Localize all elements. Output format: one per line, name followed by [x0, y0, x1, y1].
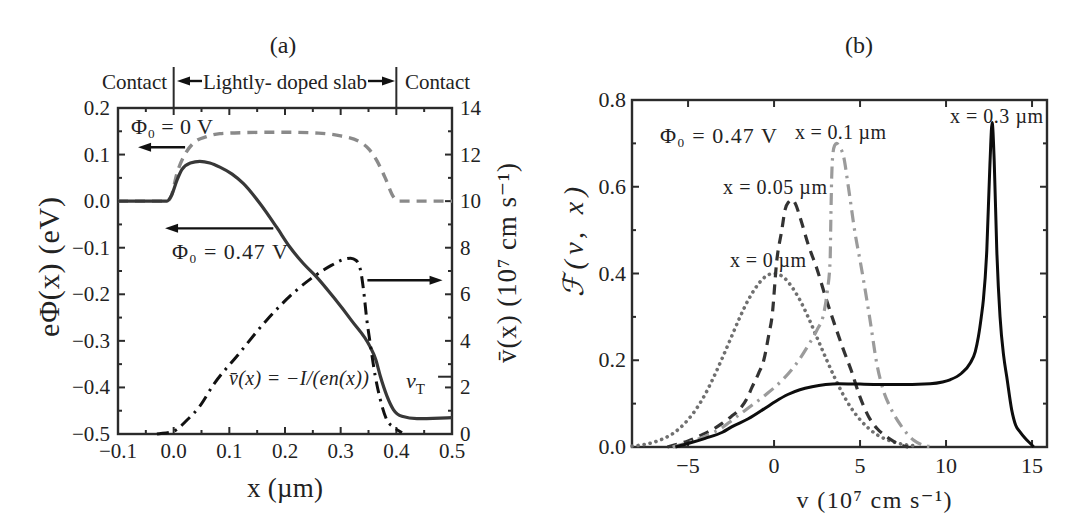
y-tick-label: 0.0 [84, 189, 110, 213]
panel-a: (a) Contact Lightly- doped slab Contact … [32, 32, 522, 503]
x-tick-label: 5 [855, 453, 866, 478]
curve-label-x-0: x = 0 µm [730, 249, 806, 272]
x-tick-label: 0 [769, 453, 780, 478]
annotation-vbar-formula: v̄(x) = −I/(en(x)) [229, 367, 369, 390]
arrow-right-icon [368, 77, 395, 86]
x-tick-label: 0.1 [216, 439, 242, 463]
y-tick-label: 0.8 [599, 87, 627, 112]
x-tick-label: 10 [935, 453, 957, 478]
y-tick-label: 0.1 [84, 143, 110, 167]
annotation-phi0-zero: Φ₀ = 0 V [131, 114, 213, 139]
y-axis-label-right-a: v̄(x) (10⁷ cm s⁻¹) [492, 163, 522, 363]
x-tick-label: 15 [1021, 453, 1043, 478]
figure: (a) Contact Lightly- doped slab Contact … [0, 0, 1068, 532]
x-tick-label: −5 [676, 453, 699, 478]
y-right-tick-label: 2 [460, 375, 471, 399]
y-tick-label: −0.1 [72, 236, 110, 260]
y-tick-label: −0.5 [72, 422, 110, 446]
x-tick-label: 0.4 [383, 439, 410, 463]
x-tick-label: 0.0 [161, 439, 187, 463]
vT-subscript: T [416, 381, 425, 397]
y-right-tick-label: 12 [460, 143, 481, 167]
series-x-0-m-line [632, 274, 917, 447]
y-tick-label: 0.0 [599, 434, 627, 459]
region-label-right-contact: Contact [405, 70, 470, 94]
annotation-vT: vT [406, 368, 425, 397]
arrow-left-icon [165, 224, 273, 233]
panel-a-title: (a) [270, 32, 297, 58]
annotation-phi0-047: Φ₀ = 0.47 V [172, 239, 288, 264]
curve-label-x-0.3: x = 0.3 µm [950, 105, 1043, 128]
y-right-tick-label: 4 [460, 329, 471, 353]
y-tick-label: 0.2 [599, 347, 627, 372]
region-label-left-contact: Contact [102, 70, 167, 94]
y-tick-label: 0.4 [599, 261, 627, 286]
y-right-tick-label: 6 [460, 282, 471, 306]
x-tick-label: 0.5 [439, 439, 465, 463]
panel-b-title: (b) [845, 32, 873, 58]
series-x-0.3-m-line [675, 123, 1033, 447]
arrow-left-icon [177, 77, 202, 86]
y-right-tick-label: 10 [460, 189, 481, 213]
vT-symbol: v [406, 368, 416, 393]
y-tick-label: 0.2 [84, 96, 110, 120]
series-layer-b [632, 123, 1034, 447]
x-axis-label-b: v (10⁷ cm s⁻¹) [797, 487, 952, 513]
x-tick-label: 0.3 [328, 439, 354, 463]
arrow-right-icon [367, 276, 442, 285]
series-v-x-i-en-x-line [157, 258, 402, 434]
y-tick-label: −0.4 [72, 375, 111, 399]
region-header: Contact Lightly- doped slab Contact [102, 67, 470, 108]
y-axis-label-b: ℱ(v, x) [558, 187, 589, 297]
series-0-v-line [118, 132, 452, 201]
annotation-phi0-047-b: Φ₀ = 0.47 V [660, 123, 777, 148]
panel-b: (b) −50510150.00.20.40.60.8 Φ₀ = 0.47 V … [558, 32, 1047, 513]
y-right-tick-label: 8 [460, 236, 471, 260]
y-axis-label-left-a: eΦ(x) (eV) [32, 197, 66, 337]
x-tick-label: 0.2 [272, 439, 298, 463]
curve-label-x-0.05: x = 0.05 µm [723, 176, 827, 199]
y-right-tick-label: 14 [460, 96, 482, 120]
region-label-slab: Lightly- doped slab [203, 70, 367, 94]
curve-label-x-0.1: x = 0.1 µm [795, 121, 886, 144]
x-axis-label-a: x (µm) [247, 473, 323, 503]
y-tick-label: −0.2 [72, 282, 110, 306]
y-tick-label: −0.3 [72, 329, 110, 353]
arrow-left-icon [138, 143, 185, 152]
y-tick-label: 0.6 [599, 174, 627, 199]
